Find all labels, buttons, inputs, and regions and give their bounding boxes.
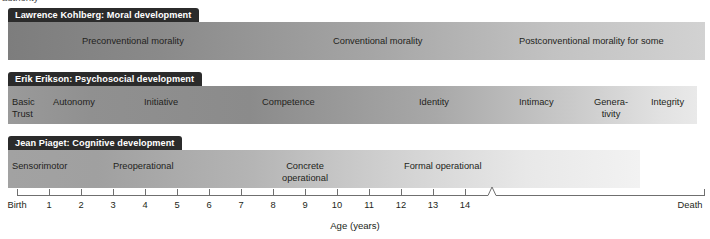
axis-label-11: 11 xyxy=(359,200,379,210)
axis-tick-10 xyxy=(337,189,338,196)
axis-break-icon xyxy=(481,186,503,198)
stage-generativity: Genera- tivity xyxy=(588,97,634,120)
row-tab-piaget: Jean Piaget: Cognitive development xyxy=(8,136,182,150)
axis-tick-11 xyxy=(369,189,370,196)
axis-tick-12 xyxy=(401,189,402,196)
stage-basic-trust: Basic Trust xyxy=(12,97,35,120)
axis-tick-8 xyxy=(273,189,274,196)
axis-tick-9 xyxy=(305,189,306,196)
axis-title: Age (years) xyxy=(290,220,420,231)
stage-formal-operational: Formal operational xyxy=(404,161,482,173)
row-tab-erikson: Erik Erikson: Psychosocial development xyxy=(8,72,202,86)
axis-label-9: 9 xyxy=(295,200,315,210)
axis-tick-14 xyxy=(465,189,466,196)
axis-label-6: 6 xyxy=(199,200,219,210)
stage-concrete-operational: Concrete operational xyxy=(270,161,340,184)
axis-label-4: 4 xyxy=(135,200,155,210)
axis-tick-6 xyxy=(209,189,210,196)
row-tab-kohlberg-label: Lawrence Kohlberg: Moral development xyxy=(15,10,191,20)
axis-label-14: 14 xyxy=(455,200,475,210)
axis-label-death: Death xyxy=(672,200,708,210)
stage-sensorimotor: Sensorimotor xyxy=(12,161,67,173)
axis-label-5: 5 xyxy=(167,200,187,210)
stage-integrity: Integrity xyxy=(651,97,684,109)
row-tab-piaget-label: Jean Piaget: Cognitive development xyxy=(15,138,174,148)
axis-label-2: 2 xyxy=(71,200,91,210)
axis-tick-7 xyxy=(241,189,242,196)
axis-label-13: 13 xyxy=(423,200,443,210)
stage-preoperational: Preoperational xyxy=(113,161,173,173)
axis-tick-5 xyxy=(177,189,178,196)
stage-conventional-morality: Conventional morality xyxy=(333,36,422,48)
axis-line-left xyxy=(17,195,488,196)
axis-label-8: 8 xyxy=(263,200,283,210)
stage-preconventional-morality: Preconventional morality xyxy=(82,36,184,48)
axis-label-7: 7 xyxy=(231,200,251,210)
axis-tick-13 xyxy=(433,189,434,196)
axis-label-12: 12 xyxy=(391,200,411,210)
axis-tick-birth xyxy=(17,189,18,196)
cropped-top-text-label: authority xyxy=(2,0,38,3)
stage-initiative: Initiative xyxy=(144,97,178,109)
stage-intimacy: Intimacy xyxy=(519,97,554,109)
stage-autonomy: Autonomy xyxy=(53,97,95,109)
axis-line-right xyxy=(496,195,705,196)
axis-label-birth: Birth xyxy=(0,200,34,210)
axis-label-3: 3 xyxy=(103,200,123,210)
stage-identity: Identity xyxy=(419,97,449,109)
stage-postconventional-morality: Postconventional morality for some xyxy=(519,36,664,48)
axis-label-1: 1 xyxy=(39,200,59,210)
axis-label-10: 10 xyxy=(327,200,347,210)
axis-tick-1 xyxy=(49,189,50,196)
stage-competence: Competence xyxy=(262,97,315,109)
row-tab-erikson-label: Erik Erikson: Psychosocial development xyxy=(15,74,194,84)
axis-tick-death xyxy=(704,189,705,196)
cropped-top-text: authority xyxy=(0,0,710,7)
axis-tick-4 xyxy=(145,189,146,196)
axis-tick-3 xyxy=(113,189,114,196)
axis-tick-2 xyxy=(81,189,82,196)
row-tab-kohlberg: Lawrence Kohlberg: Moral development xyxy=(8,8,199,22)
